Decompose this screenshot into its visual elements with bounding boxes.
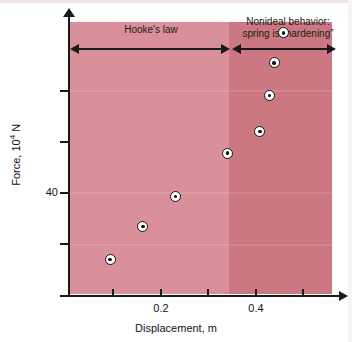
- region-label-nonideal: Nonideal behavior: spring is “hardening”: [232, 16, 344, 40]
- x-tick-label-0.2: 0.2: [141, 302, 181, 314]
- x-axis-arrow-icon: [339, 291, 348, 301]
- x-tick-minor: [207, 289, 209, 296]
- x-axis-line: [60, 295, 341, 297]
- x-tick-major-0.2: [160, 289, 162, 296]
- x-tick-label-0.4: 0.4: [236, 302, 276, 314]
- x-tick-minor: [302, 289, 304, 296]
- data-point: [269, 57, 280, 68]
- y-tick-major-40: [60, 192, 69, 194]
- y-tick-label-40: 40: [28, 186, 58, 198]
- y-tick-minor: [60, 141, 69, 143]
- span-arrow-left-head-icon: [232, 44, 241, 54]
- span-arrow-hookes-law: [78, 48, 222, 50]
- data-point: [105, 254, 116, 265]
- y-axis-arrow-icon: [63, 8, 75, 17]
- region-label-hookes-law: Hooke's law: [98, 24, 204, 36]
- chart-figure: 40 0.2 0.4 Displacement, m Force, 104 N …: [0, 0, 352, 342]
- scan-artifact-line: [70, 192, 332, 194]
- scan-edge-right: [348, 0, 352, 342]
- scan-artifact-line: [70, 90, 332, 92]
- y-tick-minor: [60, 243, 69, 245]
- y-axis-title-main: Force, 10: [10, 139, 22, 185]
- span-arrow-left-head-icon: [70, 44, 79, 54]
- y-axis-title-unit: N: [10, 124, 22, 135]
- y-tick-minor: [60, 90, 69, 92]
- scan-edge-top: [0, 0, 352, 3]
- y-axis-title: Force, 104 N: [8, 95, 22, 215]
- region-label-nonideal-line1: Nonideal behavior:: [232, 16, 344, 28]
- scan-artifact-line: [70, 244, 332, 246]
- data-point: [222, 148, 233, 159]
- region-nonideal-band: [229, 22, 332, 294]
- x-tick-minor: [112, 289, 114, 296]
- span-arrow-right-head-icon: [327, 44, 336, 54]
- x-tick-major-0.4: [255, 289, 257, 296]
- y-axis-title-exponent: 4: [8, 135, 17, 139]
- data-point: [264, 90, 275, 101]
- x-axis-title: Displacement, m: [0, 322, 352, 334]
- region-hookes-law-band: [70, 22, 229, 294]
- span-arrow-nonideal: [240, 48, 328, 50]
- span-arrow-right-head-icon: [221, 44, 230, 54]
- y-axis-line: [68, 14, 70, 297]
